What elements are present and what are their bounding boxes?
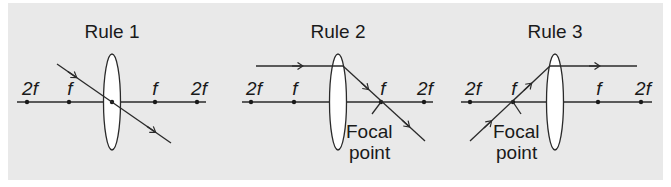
panel-title: Rule 1 xyxy=(85,21,140,42)
panel-title: Rule 3 xyxy=(528,21,583,42)
point-f-left xyxy=(292,100,296,104)
lens-ray-rules-diagram: Rule 1 2f f f 2f Rule 2 2f f f 2f xyxy=(0,0,671,187)
label-2f-right: 2f xyxy=(416,78,435,99)
focal-point-label-line1: Focal xyxy=(493,121,539,142)
focal-point-label-line2: point xyxy=(496,142,538,163)
point-2f-left xyxy=(25,100,29,104)
label-2f-left: 2f xyxy=(464,78,483,99)
point-f-right xyxy=(153,100,157,104)
label-2f-left: 2f xyxy=(21,78,40,99)
point-f-left xyxy=(67,100,71,104)
convex-lens xyxy=(547,54,564,150)
point-2f-right xyxy=(639,100,643,104)
point-2f-left xyxy=(249,100,253,104)
focal-point-label-line2: point xyxy=(349,142,391,163)
point-f-right xyxy=(596,100,600,104)
point-2f-right xyxy=(195,100,199,104)
label-2f-right: 2f xyxy=(634,78,653,99)
panel-title: Rule 2 xyxy=(311,21,366,42)
label-2f-left: 2f xyxy=(245,78,264,99)
label-2f-right: 2f xyxy=(190,78,209,99)
point-2f-right xyxy=(422,100,426,104)
point-2f-left xyxy=(468,100,472,104)
convex-lens xyxy=(330,54,347,150)
focal-point-label-line1: Focal xyxy=(346,121,392,142)
